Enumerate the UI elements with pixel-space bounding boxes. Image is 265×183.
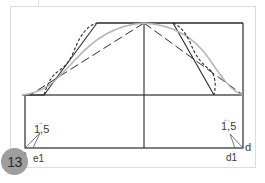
right-measure-label: 1,5 — [221, 121, 236, 132]
point-e1-label: e1 — [33, 154, 44, 164]
step-number-badge: 13 — [1, 148, 28, 175]
left-pointer-line — [25, 133, 40, 148]
point-d1-label: d1 — [226, 153, 237, 163]
pattern-rectangle — [25, 95, 243, 148]
left-dashed-line — [30, 23, 144, 95]
gray-curve — [22, 23, 243, 95]
left-measure-label: 1,5 — [34, 124, 49, 135]
right-slope-line — [173, 23, 214, 95]
right-pointer-line — [230, 134, 243, 148]
point-d-label: d — [245, 142, 251, 153]
